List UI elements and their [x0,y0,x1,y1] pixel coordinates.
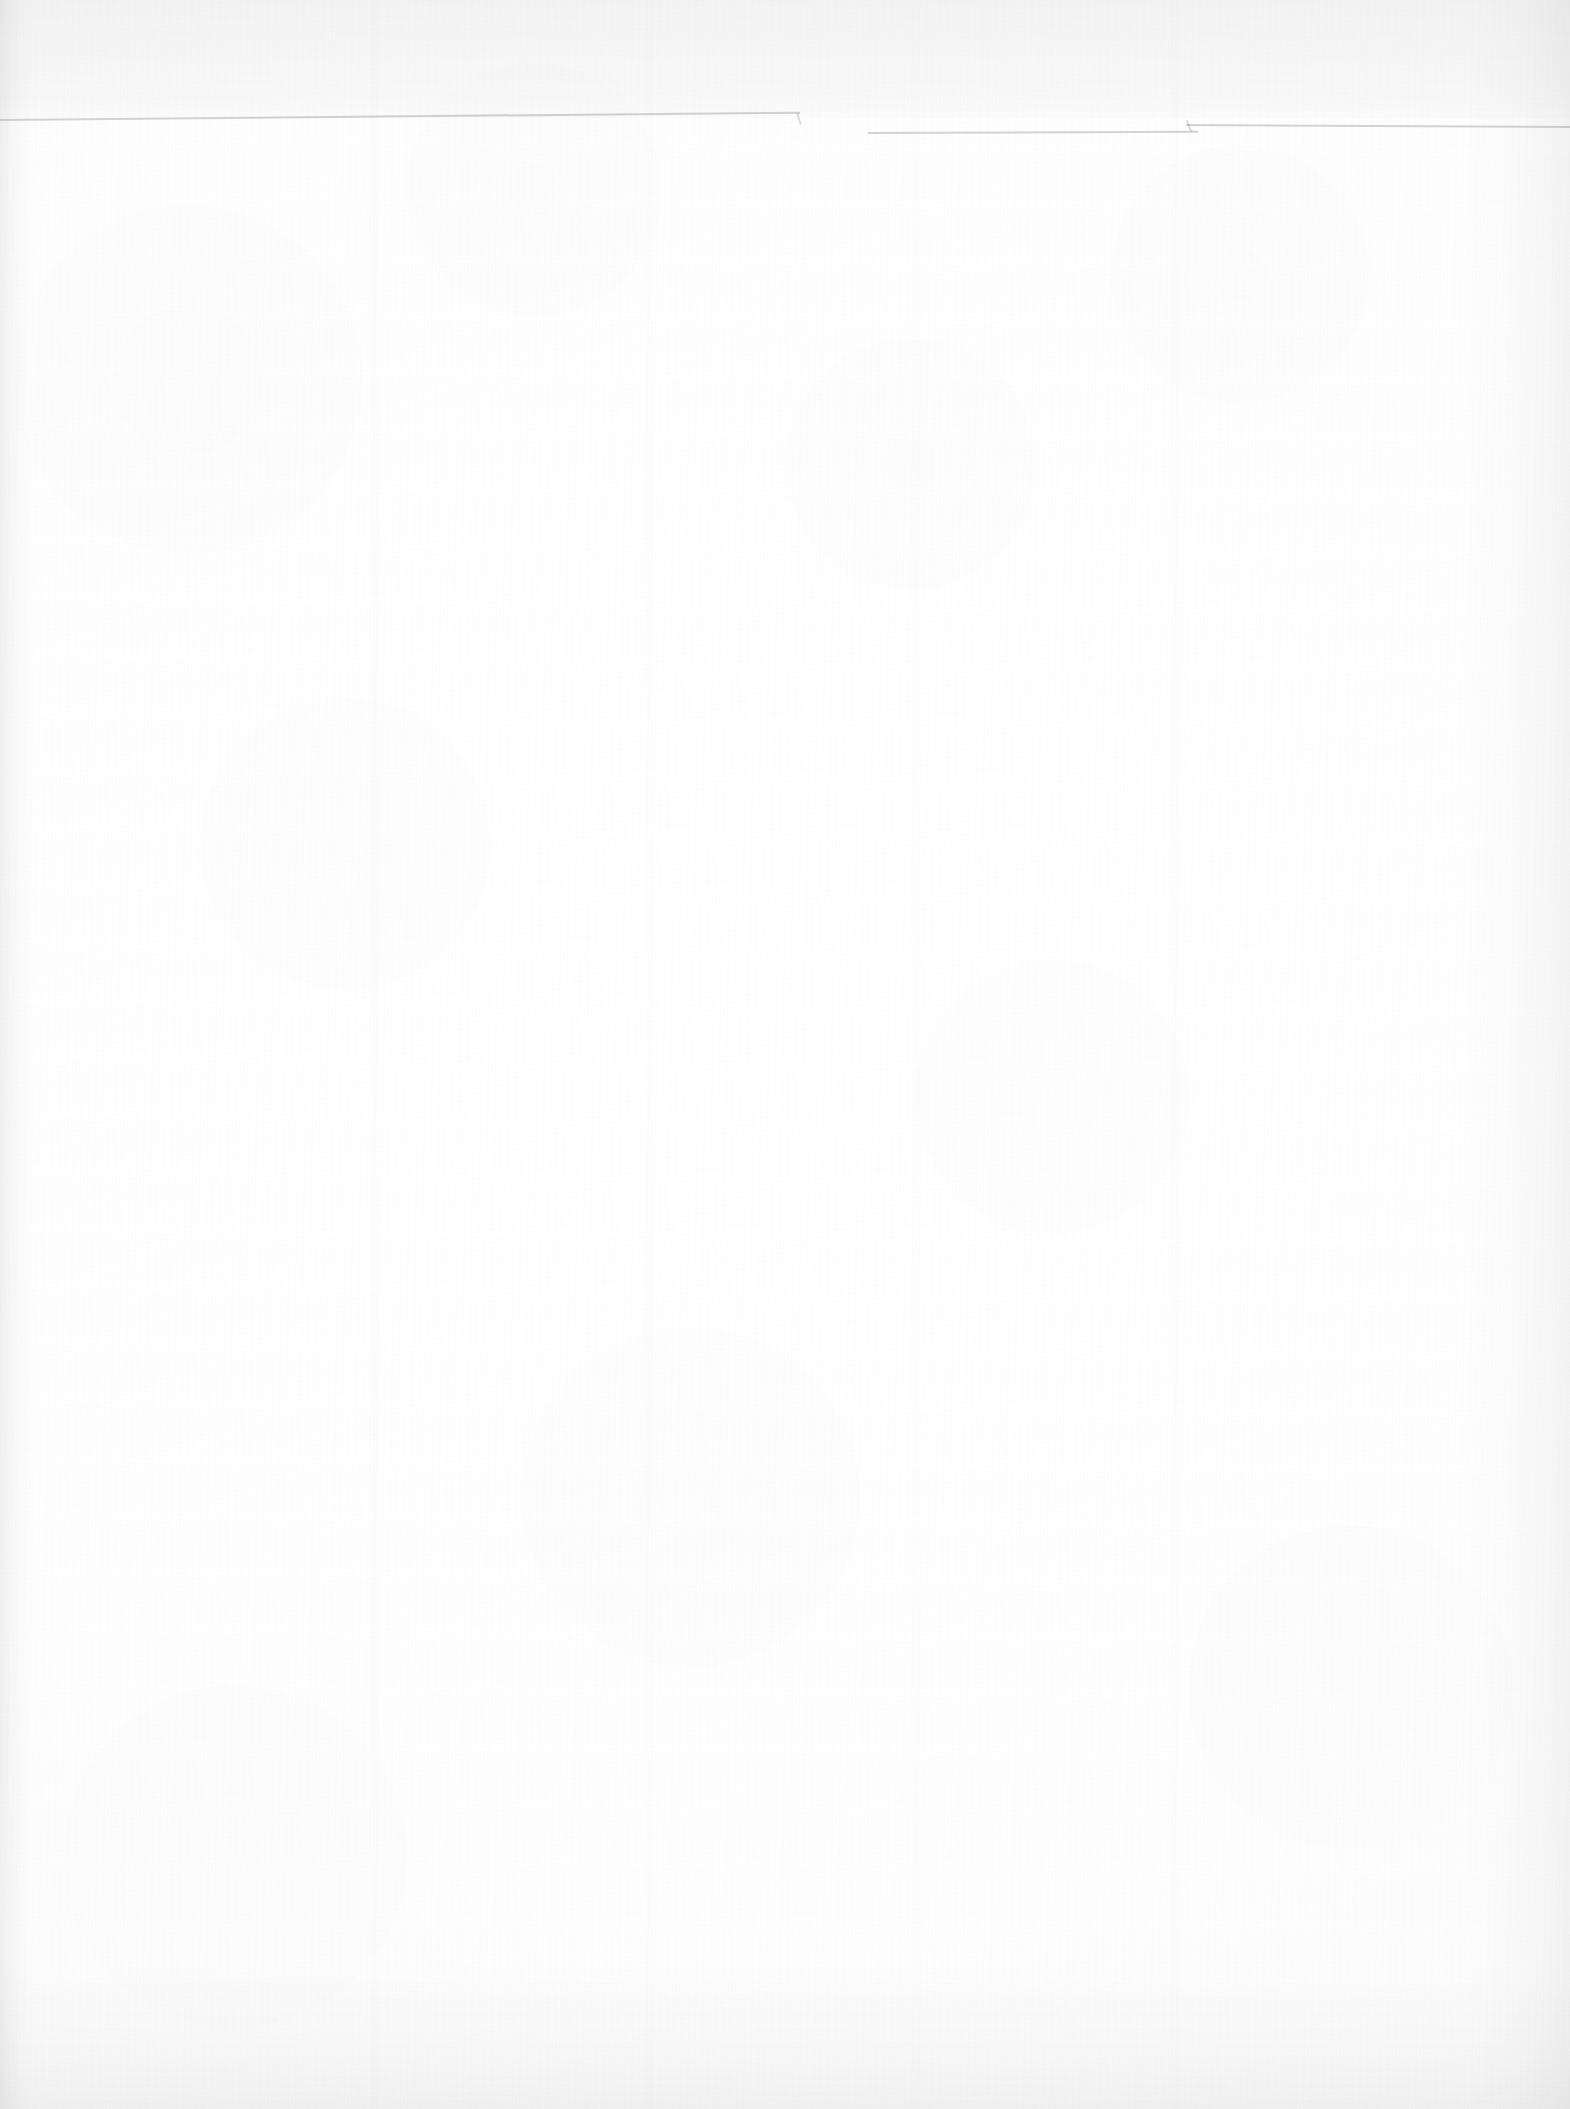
scanned-page [0,0,1570,2109]
paper-surface [0,0,1570,2109]
